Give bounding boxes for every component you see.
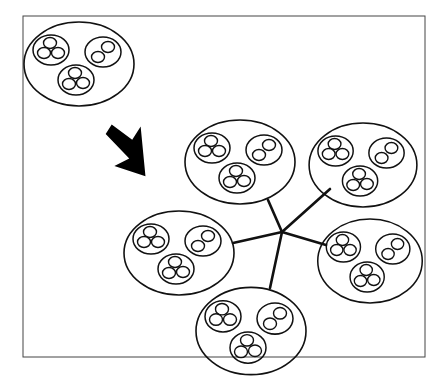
network-cluster-right (318, 219, 423, 303)
network-cluster-left (124, 211, 234, 295)
diagram-canvas (0, 0, 447, 376)
network-cluster-top-right (309, 123, 417, 207)
source-cluster (24, 22, 134, 106)
network-cluster-top (185, 120, 295, 204)
network-cluster-bottom (196, 287, 306, 374)
arrow-icon (102, 123, 151, 176)
